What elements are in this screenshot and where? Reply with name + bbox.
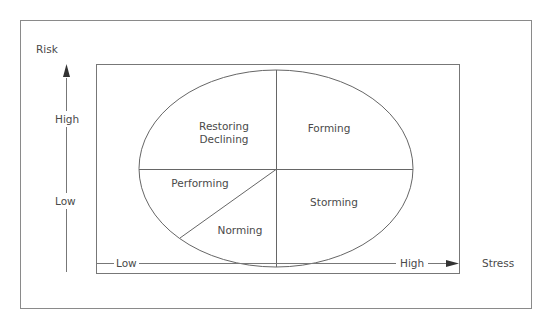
x-axis-high-label: High — [396, 257, 428, 269]
segment-restoring-declining: Restoring Declining — [179, 120, 269, 146]
y-axis-title: Risk — [36, 43, 58, 55]
diagram-canvas — [0, 0, 551, 318]
y-axis-arrowhead-icon — [63, 64, 70, 77]
segment-storming: Storming — [289, 196, 379, 209]
y-axis-low-label: Low — [54, 193, 77, 209]
x-axis-arrowhead-icon — [446, 260, 459, 267]
x-axis-low-label: Low — [114, 257, 139, 269]
y-axis-high-label: High — [54, 111, 80, 127]
segment-restoring-label: Restoring — [179, 120, 269, 133]
segment-performing: Performing — [155, 177, 245, 190]
segment-norming: Norming — [195, 224, 285, 237]
segment-forming: Forming — [284, 122, 374, 135]
x-axis-title: Stress — [482, 257, 514, 269]
segment-declining-label: Declining — [179, 133, 269, 146]
